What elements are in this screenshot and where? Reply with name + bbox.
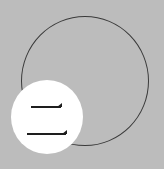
glyph-badge: 二 bbox=[11, 80, 83, 154]
canvas: 二 bbox=[0, 0, 164, 169]
glyph-stroke-bottom bbox=[27, 133, 66, 135]
glyph-stroke-top bbox=[31, 106, 61, 108]
glyph-character: 二 bbox=[11, 80, 12, 81]
